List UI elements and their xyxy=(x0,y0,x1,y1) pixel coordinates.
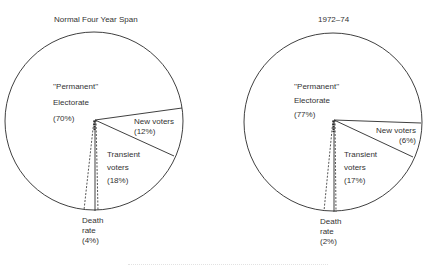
label-line: rate xyxy=(320,227,341,237)
label-line: ''Permanent'' xyxy=(294,82,339,92)
slice-divider-death-dashed-left xyxy=(84,120,94,210)
label-value: (6%) xyxy=(373,136,416,146)
chart-title-left: Normal Four Year Span xyxy=(54,15,138,24)
label-value: (17%) xyxy=(344,176,377,186)
label-value: (18%) xyxy=(107,176,140,186)
label-line: Electorate xyxy=(294,96,339,106)
pie-charts-canvas xyxy=(0,0,425,274)
label-new-voters-right: New voters (6%) xyxy=(373,126,416,146)
faint-caption-line xyxy=(128,264,328,267)
label-value: (2%) xyxy=(320,237,341,247)
slice-divider-death-dashed-left xyxy=(324,120,333,211)
slice-divider-death-dashed-right xyxy=(96,120,98,211)
chart-title-right: 1972–74 xyxy=(318,15,349,24)
label-line: rate xyxy=(82,226,103,236)
label-line: Death xyxy=(320,217,341,227)
label-permanent-left: ''Permanent'' Electorate (70%) xyxy=(53,82,98,124)
label-death-right: Death rate (2%) xyxy=(320,217,341,247)
label-value: (12%) xyxy=(134,127,174,137)
label-line: voters xyxy=(344,163,377,173)
label-value: (77%) xyxy=(294,110,339,120)
label-line: ''Permanent'' xyxy=(53,82,98,92)
label-line: Electorate xyxy=(53,98,98,108)
label-transient-right: Transient voters (17%) xyxy=(344,150,377,186)
label-new-voters-left: New voters (12%) xyxy=(134,117,174,137)
label-line: voters xyxy=(107,163,140,173)
label-death-left: Death rate (4%) xyxy=(82,216,103,246)
label-value: (70%) xyxy=(53,114,98,124)
label-line: Transient xyxy=(107,150,140,160)
label-permanent-right: ''Permanent'' Electorate (77%) xyxy=(294,82,339,120)
slice-divider-death-dashed-right xyxy=(335,120,336,212)
label-line: Transient xyxy=(344,150,377,160)
label-line: New voters xyxy=(134,117,174,127)
slice-divider-new-voters-top xyxy=(334,120,421,123)
label-value: (4%) xyxy=(82,236,103,246)
label-transient-left: Transient voters (18%) xyxy=(107,150,140,186)
label-line: New voters xyxy=(373,126,416,136)
pie-1972-74 xyxy=(244,33,422,212)
label-line: Death xyxy=(82,216,103,226)
